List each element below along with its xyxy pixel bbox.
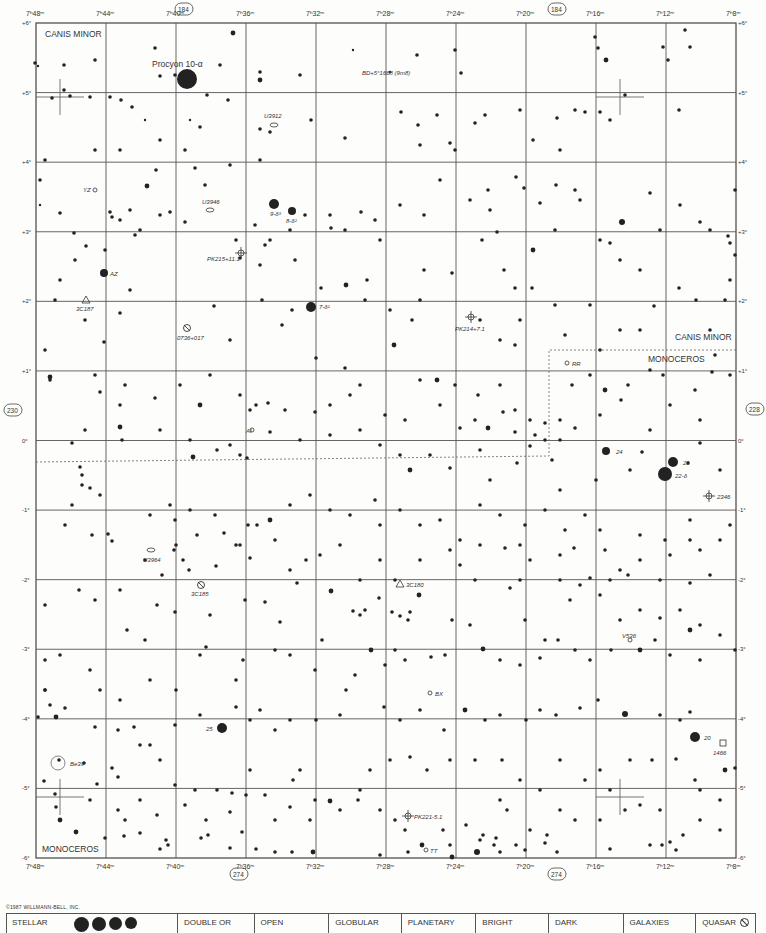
object-label: 3C185 (191, 591, 209, 597)
star-dot-icon (234, 705, 238, 709)
star-dot-icon (453, 148, 457, 152)
star-dot-icon (578, 198, 582, 202)
star-dot-icon (388, 758, 392, 762)
star-dot-icon (450, 618, 454, 622)
star-dot-icon (268, 238, 272, 242)
star-dot-icon (53, 792, 57, 796)
legend-galaxies-label: GALAXIES (630, 918, 670, 927)
star-dot-icon (77, 588, 81, 592)
star-dot-icon (619, 398, 623, 402)
magnitude-scale (74, 917, 137, 932)
star-dot-icon (453, 48, 457, 52)
star-dot-icon (198, 713, 202, 717)
star-dot-icon (348, 513, 352, 517)
star-dot-icon (158, 758, 162, 762)
star-dot-icon (573, 188, 577, 192)
nebula-icon (720, 740, 726, 746)
object-label: 1466 (713, 750, 727, 756)
adjacent-chart-bottom-label: 274 (551, 871, 562, 878)
star-dot-icon (283, 408, 287, 412)
star-dot-icon (492, 843, 496, 847)
star-dot-icon (681, 833, 685, 837)
star-dot-icon (403, 418, 407, 422)
star-dot-icon (448, 548, 452, 552)
star-dot-icon (698, 548, 702, 552)
star-dot-icon (418, 298, 422, 302)
star-dot-icon (158, 847, 162, 851)
star-dot-icon (638, 268, 642, 272)
legend-planetary-label: PLANETARY (408, 918, 455, 927)
star-dot-icon (596, 46, 600, 50)
star-dot-icon (718, 538, 722, 542)
star-dot-icon (383, 413, 387, 417)
star-dot-icon (558, 148, 562, 152)
star-dot-icon (290, 850, 294, 854)
star-dot-icon (248, 718, 252, 722)
star-dot-icon (399, 110, 403, 114)
star-dot-icon (638, 648, 643, 653)
star-dot-icon (442, 728, 446, 732)
object-label: U3946 (202, 199, 220, 205)
constellation-label: CANIS MINOR (45, 29, 102, 39)
star-dot-icon (648, 843, 652, 847)
star-dot-icon (215, 788, 219, 792)
ra-tick-bottom: 7ʰ8ᵐ (726, 863, 740, 870)
star-dot-icon (425, 768, 429, 772)
star-dot-icon (90, 533, 94, 537)
star-dot-icon (116, 775, 120, 779)
star-dot-icon (626, 383, 630, 387)
star-dot-icon (403, 828, 407, 832)
star-dot-icon (213, 513, 217, 517)
star-dot-icon (378, 558, 382, 562)
star-dot-icon (328, 213, 332, 217)
star-dot-icon (130, 105, 134, 109)
star-dot-icon (230, 791, 234, 795)
star-dot-icon (698, 658, 702, 662)
copyright-notice: ©1987 WILLMANN-BELL, INC. (6, 904, 80, 910)
star-dot-icon (418, 143, 422, 147)
star-dot-icon (528, 418, 532, 422)
star-dot-icon (168, 503, 172, 507)
star-dot-icon (84, 244, 88, 248)
star-dot-icon (298, 73, 302, 77)
star-dot-icon (661, 45, 665, 49)
star-dot-icon (253, 223, 257, 227)
star-dot-icon (468, 623, 472, 627)
star-dot-icon (314, 718, 318, 722)
star-dot-icon (718, 828, 722, 832)
star-dot-icon (295, 581, 299, 585)
star-dot-icon (514, 843, 518, 847)
dec-tick-right: -4° (738, 716, 746, 722)
object-label: U3912 (264, 113, 282, 119)
star-dot-icon (378, 443, 382, 447)
star-dot-icon (138, 798, 142, 802)
legend-dark: DARK (548, 914, 623, 933)
star-dot-icon (48, 375, 53, 380)
star-dot-icon (660, 843, 664, 847)
variable-star-icon (93, 188, 97, 192)
ra-tick-bottom: 7ʰ40ᵐ (166, 863, 184, 870)
star-dot-icon (93, 148, 97, 152)
dec-tick-right: -5° (738, 785, 746, 791)
dec-tick-right: -3° (738, 646, 746, 652)
star-dot-icon (248, 408, 252, 412)
star-dot-icon (148, 513, 152, 517)
star-dot-icon (522, 186, 526, 190)
object-label: 24 (615, 449, 623, 455)
star-dot-icon (435, 378, 440, 383)
legend-galaxies: GALAXIES (623, 914, 696, 933)
star-dot-icon (398, 508, 402, 512)
star-dot-icon (273, 850, 277, 854)
star-dot-icon (228, 810, 232, 814)
star-dot-icon (228, 163, 232, 167)
star-dot-icon (273, 648, 277, 652)
ra-tick-top: 7ʰ44ᵐ (96, 10, 114, 17)
ra-tick-top: 7ʰ20ᵐ (516, 10, 534, 17)
star-dot-icon (88, 486, 92, 490)
star-dot-icon (518, 778, 522, 782)
legend-globular: GLOBULAR (328, 914, 401, 933)
star-dot-icon (173, 518, 177, 522)
object-label: 8-δ² (286, 218, 298, 224)
star-dot-icon (83, 428, 87, 432)
star-dot-icon (478, 543, 482, 547)
